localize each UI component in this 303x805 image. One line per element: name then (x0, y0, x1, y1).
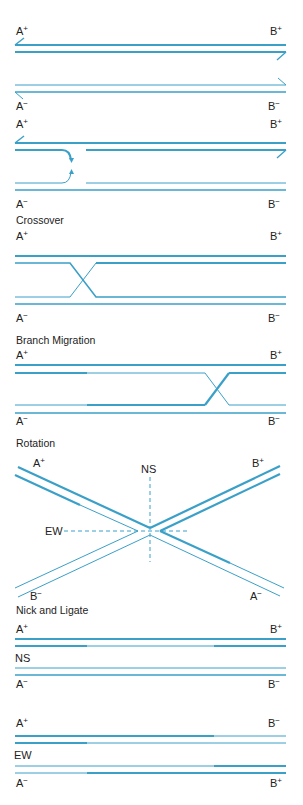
label-a-plus: A+ (16, 229, 28, 242)
label-a-minus: A− (16, 311, 28, 324)
strand (150, 466, 280, 528)
strand-end-hook (277, 52, 286, 60)
panel-crossover: Crossover A+ B+ A− B− (15, 214, 286, 324)
ns-label: NS (15, 652, 30, 664)
label-a-plus: A+ (16, 24, 28, 37)
label-b-minus: B− (268, 99, 280, 112)
label-b-plus: B+ (252, 456, 264, 469)
strand-end-hook (278, 78, 286, 85)
label-b-plus: B+ (270, 622, 282, 635)
invading-strand (15, 172, 71, 183)
panel-title: Branch Migration (16, 334, 96, 346)
arrow-icon (69, 169, 74, 174)
label-b-plus: B+ (270, 117, 282, 130)
panel-branch-migration: Branch Migration A+ B+ A− B− (15, 334, 286, 427)
strand-end-hook (277, 150, 286, 158)
label-a-minus: A− (16, 677, 28, 690)
panel-nick-ligate-ns: Nick and Ligate A+ B+ NS A− B− (15, 604, 286, 690)
strand-end-hook (15, 92, 23, 99)
ns-axis-label: NS (141, 463, 156, 475)
label-b-plus: B+ (270, 348, 282, 361)
panel-title: Rotation (16, 437, 55, 449)
label-a-plus: A+ (16, 622, 28, 635)
strand (230, 563, 284, 588)
label-b-plus: B+ (270, 229, 282, 242)
strand (150, 535, 280, 596)
strand (160, 531, 230, 563)
label-b-minus: B− (268, 197, 280, 210)
label-a-minus: A− (16, 99, 28, 112)
label-a-plus: A+ (16, 716, 28, 729)
label-b-minus: B− (268, 716, 280, 729)
ew-label: EW (14, 749, 32, 761)
panel-nick-ligate-ew: A+ B− EW A− B+ (14, 716, 286, 789)
panel-initial: A+ B+ A− B− (15, 24, 286, 112)
holliday-junction-diagram: A+ B+ A− B− A+ B+ A− B− Crossover A+ B+ (0, 0, 303, 805)
strand (18, 535, 150, 597)
panel-title: Nick and Ligate (16, 604, 89, 616)
panel-title: Crossover (16, 214, 64, 226)
label-a-minus: A− (16, 414, 28, 427)
panel-strand-invasion: A+ B+ A− B− (15, 117, 286, 210)
label-a-minus: A− (16, 776, 28, 789)
label-b-minus: B− (268, 677, 280, 690)
strand (15, 531, 138, 588)
crossover-strand (15, 263, 286, 297)
label-b-minus: B− (268, 311, 280, 324)
label-a-minus: A− (16, 197, 28, 210)
label-b-minus: B− (30, 589, 42, 602)
strand (160, 474, 280, 531)
crossover-strand (15, 263, 286, 297)
label-a-plus: A+ (16, 117, 28, 130)
ew-axis-label: EW (45, 525, 63, 537)
label-a-plus: A+ (33, 456, 45, 469)
label-a-plus: A+ (16, 348, 28, 361)
label-a-minus: A− (250, 589, 262, 602)
label-b-plus: B+ (270, 776, 282, 789)
label-b-minus: B− (268, 414, 280, 427)
label-b-plus: B+ (270, 24, 282, 37)
panel-rotation: Rotation A+ B+ NS EW B− A− (15, 437, 284, 602)
strand (18, 467, 150, 528)
arrow-icon (69, 158, 74, 163)
invading-strand (15, 150, 71, 160)
